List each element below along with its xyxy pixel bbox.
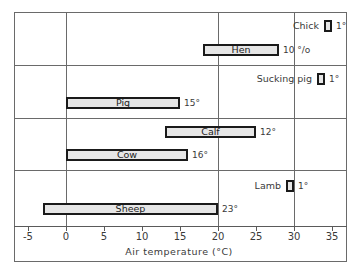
x-tick-label: 30	[279, 231, 309, 242]
panel-divider	[14, 65, 347, 66]
x-axis-label: Air temperature (°C)	[0, 246, 358, 257]
bar-calf: Calf	[165, 126, 256, 138]
x-tick-label: -5	[13, 231, 43, 242]
x-tick-label: 20	[203, 231, 233, 242]
x-tick-label: 10	[127, 231, 157, 242]
thermoneutral-range-chart: -505101520253035 Chick1°Hen10 °/oSucking…	[0, 0, 358, 272]
gridline-vertical	[66, 12, 67, 226]
range-value-label: 23°	[222, 203, 238, 215]
bar-chick	[324, 20, 332, 32]
x-tick-label: 5	[89, 231, 119, 242]
panel-divider	[14, 118, 347, 119]
range-value-label: 15°	[184, 97, 200, 109]
panel-divider	[14, 170, 347, 171]
bar-lamb	[286, 180, 294, 192]
bar-name-label: Sucking pig	[257, 73, 312, 85]
range-value-label: 10 °/o	[283, 44, 310, 56]
range-value-label: 1°	[329, 73, 339, 85]
bar-pig: Pig	[66, 97, 180, 109]
x-tick-label: 15	[165, 231, 195, 242]
x-tick-label: 0	[51, 231, 81, 242]
x-tick-label: 35	[317, 231, 347, 242]
range-value-label: 16°	[192, 149, 208, 161]
bar-sucking-pig	[317, 73, 325, 85]
range-value-label: 12°	[260, 126, 276, 138]
range-value-label: 1°	[298, 180, 308, 192]
bar-hen: Hen	[203, 44, 279, 56]
bar-name-label: Lamb	[255, 180, 281, 192]
bar-sheep: Sheep	[43, 203, 218, 215]
range-value-label: 1°	[336, 20, 346, 32]
bar-cow: Cow	[66, 149, 188, 161]
bar-name-label: Chick	[293, 20, 319, 32]
x-tick-label: 25	[241, 231, 271, 242]
